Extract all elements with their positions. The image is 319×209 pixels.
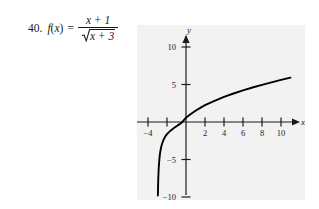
fraction: x + 1 x + 3	[78, 14, 118, 42]
problem-statement: 40. f(x) = x + 1 x + 3	[28, 14, 118, 42]
y-tick-label-5: 5	[172, 80, 176, 90]
x-axis-arrowhead	[292, 118, 300, 125]
x-tick-label--4: −4	[143, 128, 153, 138]
x-tick-label-8: 8	[260, 128, 264, 138]
close-paren: )	[60, 22, 64, 34]
function-notation: f(x)	[47, 22, 63, 34]
x-tick-label-10: 10	[277, 128, 286, 138]
equals-sign: =	[67, 22, 74, 34]
y-tick-label-10: 10	[168, 42, 177, 52]
y-axis-arrowhead	[182, 35, 189, 43]
function-graph: −4 2 4 6 8 10 10 5 −5 −10 x y	[137, 25, 305, 200]
fraction-denominator: x + 3	[78, 28, 118, 42]
x-tick-label-6: 6	[241, 128, 245, 138]
x-axis-label: x	[300, 117, 305, 127]
fraction-numerator: x + 1	[83, 14, 113, 27]
x-tick-label-4: 4	[222, 128, 227, 138]
radicand: x + 3	[89, 29, 115, 42]
x-tick-label-2: 2	[203, 128, 207, 138]
graph-panel: −4 2 4 6 8 10 10 5 −5 −10 x y	[137, 25, 305, 200]
radical-sign-icon	[82, 29, 89, 42]
square-root: x + 3	[81, 29, 115, 42]
y-axis-label: y	[186, 25, 191, 35]
y-tick-label--10: −10	[163, 192, 176, 200]
problem-number: 40.	[28, 22, 42, 34]
axes	[137, 36, 292, 195]
y-tick-label--5: −5	[167, 155, 176, 165]
